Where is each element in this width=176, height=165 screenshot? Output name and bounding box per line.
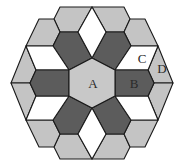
- label-d: D: [157, 61, 166, 76]
- label-a: A: [88, 76, 98, 91]
- label-c: C: [138, 51, 147, 66]
- dark-piece: [30, 70, 69, 96]
- hexagon-tiling-diagram: ABCD: [0, 0, 176, 165]
- label-b: B: [130, 76, 139, 91]
